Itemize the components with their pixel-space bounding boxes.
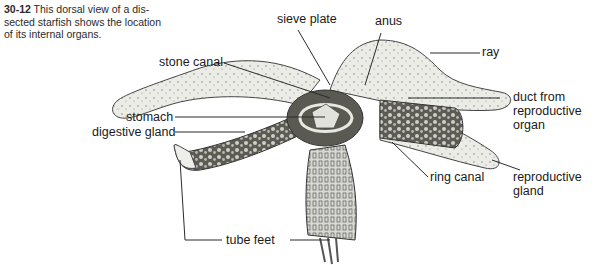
- starfish-illustration: [0, 0, 606, 265]
- label-digestive-gland: digestive gland: [92, 125, 175, 139]
- label-duct-line-1: duct from: [513, 90, 565, 104]
- label-tube-feet: tube feet: [226, 233, 275, 247]
- ray-lower: [306, 145, 356, 240]
- label-reproductive-gland-line-1: reproductive: [513, 170, 582, 184]
- label-reproductive-gland: reproductive gland: [513, 170, 582, 198]
- label-duct-from-reproductive-organ: duct from reproductive organ: [513, 90, 582, 132]
- label-reproductive-gland-line-2: gland: [513, 184, 544, 198]
- label-ring-canal: ring canal: [430, 170, 484, 184]
- label-stone-canal: stone canal: [159, 55, 223, 69]
- label-duct-line-2: reproductive: [513, 104, 582, 118]
- label-duct-line-3: organ: [513, 118, 545, 132]
- label-ray: ray: [482, 45, 499, 59]
- label-stomach: stomach: [126, 110, 173, 124]
- tube-feet-tips: [320, 238, 338, 264]
- label-anus: anus: [375, 14, 402, 28]
- label-sieve-plate: sieve plate: [277, 12, 337, 26]
